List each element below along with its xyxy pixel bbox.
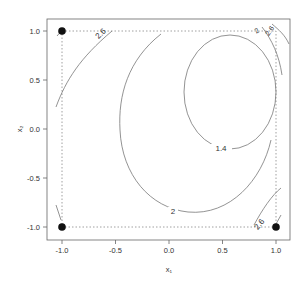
- contour-segment: [56, 205, 61, 220]
- x-tick-label: 0.0: [164, 246, 174, 255]
- x-axis: [62, 240, 276, 244]
- x-tick-label: 1.0: [271, 246, 281, 255]
- x-tick-label: 0.5: [217, 246, 227, 255]
- y-tick-label: 0.5: [30, 76, 40, 85]
- contour-chart: 1.4 2 2.6 2.6 2 2.6 -1.0 -0.5 0.0 0.5 1.…: [0, 0, 304, 285]
- design-point: [272, 223, 280, 231]
- contour-label: 2.6: [94, 26, 109, 41]
- contour-label: 1.4: [215, 144, 227, 153]
- design-point: [58, 223, 66, 231]
- y-tick-label: -1.0: [27, 223, 40, 232]
- x-axis-label: x₁: [166, 265, 173, 274]
- x-tick-label: -1.0: [56, 246, 69, 255]
- contour-2.6-upper-left: [56, 31, 112, 107]
- y-axis: [43, 31, 47, 227]
- contour-2.6-upper-right: [272, 24, 289, 44]
- contour-2: [120, 34, 271, 212]
- region-square: [62, 31, 276, 227]
- x-tick-label: -0.5: [109, 246, 122, 255]
- contour-label: 2: [253, 27, 260, 35]
- contour-label: 2.6: [252, 217, 266, 232]
- contour-label: 2: [171, 207, 176, 216]
- contour-1.4: [184, 35, 276, 149]
- y-tick-label: -0.5: [27, 174, 40, 183]
- contour-segment: [276, 215, 281, 224]
- y-axis-label: x₂: [15, 126, 24, 133]
- contour-label: 2.6: [264, 25, 275, 37]
- y-tick-label: 1.0: [30, 27, 40, 36]
- y-tick-label: 0.0: [30, 125, 40, 134]
- design-point: [58, 27, 66, 35]
